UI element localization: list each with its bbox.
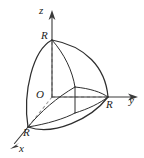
geometry-diagram bbox=[0, 0, 144, 158]
sphere-right-meridian-arc bbox=[52, 40, 108, 97]
radius-label-x-axis: R bbox=[23, 127, 30, 138]
inner-arc-toward-y-radius bbox=[75, 87, 108, 97]
radius-label-y-axis: R bbox=[106, 99, 113, 110]
inner-rib-from-apex-curve bbox=[52, 40, 75, 87]
axis-label-x: x bbox=[19, 143, 24, 154]
axis-label-y: y bbox=[129, 95, 134, 106]
axis-label-z: z bbox=[39, 5, 43, 16]
radius-label-z-axis: R bbox=[41, 30, 48, 41]
sphere-octant-outline bbox=[27, 40, 108, 129]
origin-label: O bbox=[36, 89, 44, 100]
figure-canvas: z y x O R R R bbox=[0, 0, 144, 158]
inner-cut-surface bbox=[28, 40, 108, 127]
lower-inner-arc-right bbox=[75, 97, 108, 113]
